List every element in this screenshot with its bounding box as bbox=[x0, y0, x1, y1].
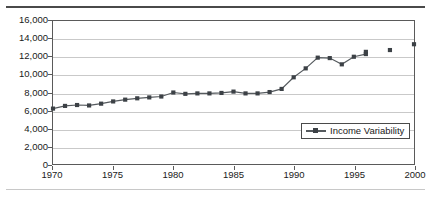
data-point-marker bbox=[304, 66, 308, 70]
x-axis-tick-label: 1975 bbox=[102, 170, 123, 180]
data-point-marker bbox=[412, 42, 416, 46]
data-point-marker bbox=[364, 50, 368, 54]
x-axis-tick bbox=[355, 166, 356, 170]
x-axis-tick-label: 1990 bbox=[283, 170, 304, 180]
data-point-marker bbox=[75, 103, 79, 107]
bottom-divider-rule bbox=[6, 189, 425, 190]
data-point-marker bbox=[268, 90, 272, 94]
data-point-marker bbox=[183, 92, 187, 96]
data-point-marker bbox=[51, 107, 55, 111]
y-axis-tick-label: 12,000 bbox=[0, 52, 48, 62]
data-point-marker bbox=[255, 91, 259, 95]
data-point-marker bbox=[195, 91, 199, 95]
x-axis-tick bbox=[113, 166, 114, 170]
data-point-marker bbox=[219, 91, 223, 95]
data-point-marker bbox=[111, 99, 115, 103]
chart-legend: Income Variability bbox=[301, 123, 410, 139]
data-point-marker bbox=[340, 62, 344, 66]
data-point-marker bbox=[147, 95, 151, 99]
x-axis-tick bbox=[415, 166, 416, 170]
data-point-marker bbox=[171, 90, 175, 94]
plot-area bbox=[52, 20, 415, 165]
x-axis-tick-label: 1995 bbox=[344, 170, 365, 180]
data-point-marker bbox=[328, 56, 332, 60]
data-point-marker bbox=[352, 55, 356, 59]
chart-figure: 16,00014,00012,00010,0008,0006,0004,0002… bbox=[0, 0, 431, 198]
data-point-marker bbox=[63, 104, 67, 108]
data-point-marker bbox=[87, 103, 91, 107]
data-point-marker bbox=[135, 96, 139, 100]
x-axis: 1970197519801985199019952000 bbox=[52, 166, 415, 186]
data-point-marker bbox=[292, 75, 296, 79]
y-axis-tick-label: 6,000 bbox=[0, 106, 48, 116]
y-axis-tick-label: 2,000 bbox=[0, 142, 48, 152]
x-axis-tick bbox=[294, 166, 295, 170]
data-point-marker bbox=[231, 90, 235, 94]
x-axis-tick-label: 1980 bbox=[162, 170, 183, 180]
data-point-marker bbox=[280, 87, 284, 91]
legend-marker-icon bbox=[306, 126, 326, 135]
data-point-marker bbox=[159, 94, 163, 98]
x-axis-tick bbox=[173, 166, 174, 170]
data-point-marker bbox=[207, 91, 211, 95]
y-axis-tick-label: 10,000 bbox=[0, 70, 48, 80]
y-axis-tick-label: 8,000 bbox=[0, 88, 48, 98]
data-point-marker bbox=[388, 48, 392, 52]
series-layer bbox=[53, 21, 414, 164]
data-point-marker bbox=[316, 56, 320, 60]
legend-label-income-variability: Income Variability bbox=[330, 126, 404, 136]
y-axis-tick-label: 4,000 bbox=[0, 124, 48, 134]
x-axis-tick-label: 2000 bbox=[404, 170, 425, 180]
x-axis-tick-label: 1970 bbox=[41, 170, 62, 180]
y-axis: 16,00014,00012,00010,0008,0006,0004,0002… bbox=[0, 20, 48, 165]
data-point-marker bbox=[243, 91, 247, 95]
data-point-marker bbox=[123, 98, 127, 102]
top-divider-rule bbox=[6, 6, 425, 8]
series-line-income-variability bbox=[53, 54, 366, 109]
y-axis-tick-label: 14,000 bbox=[0, 33, 48, 43]
data-point-marker bbox=[99, 102, 103, 106]
x-axis-tick bbox=[52, 166, 53, 170]
x-axis-tick-label: 1985 bbox=[223, 170, 244, 180]
y-axis-tick-label: 16,000 bbox=[0, 15, 48, 25]
x-axis-tick bbox=[234, 166, 235, 170]
